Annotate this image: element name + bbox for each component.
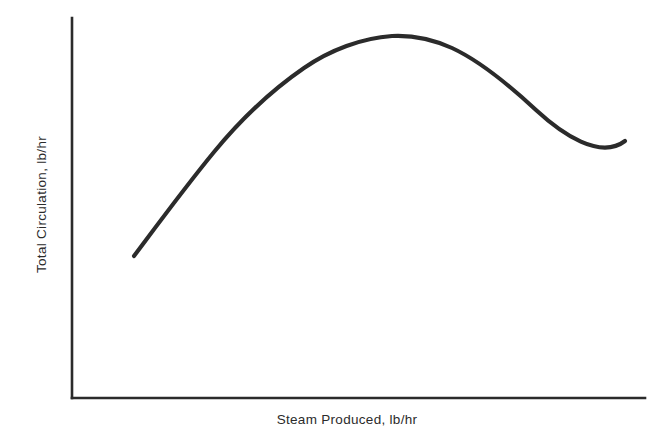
chart-figure: Steam Produced, lb/hr Total Circulation,… [0, 0, 662, 446]
y-axis-label: Total Circulation, lb/hr [34, 95, 49, 315]
total-circulation-curve [134, 36, 625, 256]
plot-area [0, 0, 662, 446]
x-axis-label: Steam Produced, lb/hr [72, 412, 622, 427]
